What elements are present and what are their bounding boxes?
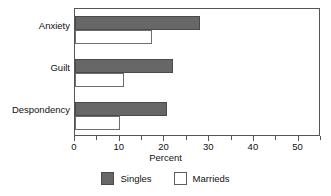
category-label-despondency: Despondency [0,105,70,115]
plot-frame [74,8,320,136]
bar-chart: Anxiety Guilt Despondency 01020304050 Pe… [0,0,331,196]
category-label-anxiety: Anxiety [0,21,70,31]
legend-item-marrieds: Marrieds [174,172,230,185]
bar-marrieds-guilt [75,73,124,87]
legend-item-singles: Singles [101,172,151,185]
x-tick-label-10: 10 [104,141,134,152]
x-tick-label-50: 50 [283,141,313,152]
plot-area [75,9,319,135]
x-tick-55 [320,136,321,140]
legend-swatch-marrieds [174,172,187,185]
bar-singles-anxiety [75,16,200,30]
x-tick-35 [231,136,232,140]
x-tick-label-30: 30 [193,141,223,152]
bar-marrieds-anxiety [75,30,152,44]
bar-singles-guilt [75,59,173,73]
x-axis-title: Percent [0,152,331,163]
x-tick-15 [141,136,142,140]
bar-marrieds-despondency [75,116,120,130]
x-tick-5 [96,136,97,140]
legend-swatch-singles [101,172,114,185]
chart-legend: Singles Marrieds [0,172,331,185]
legend-label-marrieds: Marrieds [193,173,230,184]
x-tick-45 [275,136,276,140]
x-tick-label-40: 40 [238,141,268,152]
x-tick-label-20: 20 [148,141,178,152]
bar-singles-despondency [75,102,167,116]
legend-label-singles: Singles [120,173,151,184]
x-tick-label-0: 0 [59,141,89,152]
x-tick-25 [186,136,187,140]
category-label-guilt: Guilt [0,63,70,73]
